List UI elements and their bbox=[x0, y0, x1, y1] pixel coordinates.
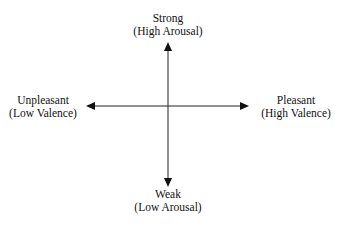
label-top-sub: (High Arousal) bbox=[118, 25, 218, 38]
label-low-arousal: Weak (Low Arousal) bbox=[118, 188, 218, 214]
label-left-sub: (Low Valence) bbox=[0, 107, 86, 120]
valence-arousal-diagram: Strong (High Arousal) Unpleasant (Low Va… bbox=[0, 0, 342, 227]
label-high-arousal: Strong (High Arousal) bbox=[118, 12, 218, 38]
arrow-up-icon bbox=[164, 42, 172, 51]
arrow-down-icon bbox=[164, 178, 172, 187]
label-bottom-sub: (Low Arousal) bbox=[118, 201, 218, 214]
label-left-main: Unpleasant bbox=[0, 94, 86, 107]
label-bottom-main: Weak bbox=[118, 188, 218, 201]
arrow-right-icon bbox=[240, 102, 249, 110]
label-high-valence: Pleasant (High Valence) bbox=[250, 94, 342, 120]
arrow-left-icon bbox=[86, 102, 95, 110]
label-top-main: Strong bbox=[118, 12, 218, 25]
label-right-sub: (High Valence) bbox=[250, 107, 342, 120]
label-low-valence: Unpleasant (Low Valence) bbox=[0, 94, 86, 120]
label-right-main: Pleasant bbox=[250, 94, 342, 107]
